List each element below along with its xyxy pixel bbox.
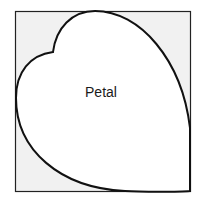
petal-diagram: Petal (0, 0, 201, 204)
petal-label: Petal (85, 84, 117, 100)
